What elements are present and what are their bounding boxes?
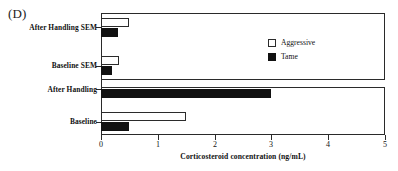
x-tick-label-1: 1 [156,140,160,149]
legend-label-aggressive: Aggressive [281,38,315,47]
bar-after-handling-sem-tame [101,28,118,37]
legend-label-tame: Tame [281,52,298,61]
bar-baseline-sem-tame [101,66,112,75]
legend-item-tame: Tame [268,50,358,63]
x-tick-label-5: 5 [383,140,387,149]
bar-baseline-tame [101,122,129,131]
filled-square-icon [268,53,276,61]
x-tick-label-3: 3 [269,140,273,149]
category-label-baseline: Baseline [70,117,97,126]
x-tick-label-2: 2 [213,140,217,149]
bar-after-handling-sem-aggressive [101,18,129,27]
bar-after-handling-aggressive [101,79,385,88]
bars-layer [101,13,385,135]
bar-baseline-sem-aggressive [101,56,119,65]
legend-item-aggressive: Aggressive [268,36,358,49]
category-label-baseline-sem: Baseline SEM [52,61,97,70]
open-square-icon [268,39,276,47]
bar-after-handling-tame [101,89,271,98]
bar-baseline-aggressive [101,112,186,121]
panel-label: (D) [8,6,27,22]
category-label-after-handling: After Handling [47,85,97,94]
category-label-after-handling-sem: After Handling SEM [29,23,97,32]
x-tick-label-0: 0 [99,140,103,149]
x-tick-label-4: 4 [326,140,330,149]
x-axis-title: Corticosteroid concentration (ng/mL) [101,152,385,161]
legend: Aggressive Tame [268,36,358,64]
figure-panel-d: (D) After Handling SEM Baseline SEM Afte… [0,0,398,171]
